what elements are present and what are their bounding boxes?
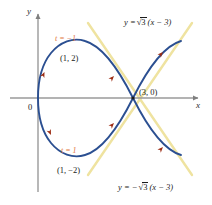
equation-lower-lhs: y = − (118, 182, 138, 192)
equation-upper-rhs: (x − 3) (148, 17, 172, 27)
equation-upper-radicand: 3 (140, 17, 146, 27)
sqrt-icon: √3 (136, 17, 148, 27)
origin-label: 0 (28, 103, 32, 112)
point-label-bottom: (1, −2) (57, 166, 80, 175)
equation-label-lower: y = −√3(x − 3) (118, 182, 173, 192)
equation-lower-rhs: (x − 3) (149, 182, 173, 192)
parameter-label-top: t = −1 (55, 35, 76, 43)
y-axis-label: y (27, 7, 31, 16)
x-axis-label: x (196, 101, 200, 110)
equation-label-upper: y =√3(x − 3) (124, 17, 171, 27)
parametric-curve-figure: y x 0 t = −1 (1, 2) t = 1 (1, −2) (3, 0)… (0, 0, 212, 205)
direction-arrow-icon (157, 145, 164, 152)
direction-arrow-icon (108, 121, 115, 128)
sqrt-icon: √3 (138, 182, 150, 192)
equation-lower-radicand: 3 (142, 182, 148, 192)
equation-upper-lhs: y = (124, 17, 136, 27)
direction-arrow-icon (47, 129, 53, 136)
parameter-label-bottom: t = 1 (61, 147, 77, 155)
point-label-top: (1, 2) (60, 54, 78, 63)
direction-arrows-group (40, 50, 165, 152)
point-label-crossing: (3, 0) (139, 88, 157, 97)
self-intersection-point (131, 96, 134, 99)
direction-arrow-icon (108, 74, 115, 81)
